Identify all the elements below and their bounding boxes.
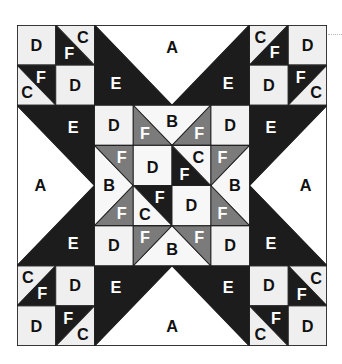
label-f: F	[117, 204, 127, 223]
label-f: F	[296, 67, 306, 86]
label-f: F	[64, 44, 74, 63]
label-e: E	[223, 74, 234, 93]
label-c: C	[77, 324, 89, 343]
label-d: D	[31, 35, 43, 54]
label-c: C	[254, 27, 266, 46]
label-d: D	[263, 276, 275, 295]
label-f: F	[63, 308, 73, 327]
label-c: C	[22, 268, 34, 287]
label-c: C	[310, 83, 322, 102]
label-f: F	[140, 228, 150, 247]
label-f: F	[194, 124, 204, 143]
label-c: C	[254, 324, 266, 343]
label-d: D	[263, 76, 275, 95]
label-c: C	[192, 148, 204, 167]
label-e: E	[223, 278, 234, 297]
label-b: B	[166, 240, 178, 259]
label-d: D	[224, 116, 236, 135]
label-d: D	[69, 276, 81, 295]
label-e: E	[265, 118, 276, 137]
label-d: D	[302, 316, 314, 335]
label-f: F	[117, 148, 127, 167]
label-d: D	[108, 116, 120, 135]
label-c: C	[139, 205, 151, 224]
label-b: B	[103, 176, 115, 195]
label-b: B	[166, 112, 178, 131]
label-a: A	[300, 176, 312, 195]
label-e: E	[68, 118, 79, 137]
label-d: D	[31, 316, 43, 335]
label-e: E	[110, 74, 121, 93]
label-f: F	[140, 124, 150, 143]
label-c: C	[21, 83, 33, 102]
label-e: E	[265, 234, 276, 253]
label-e: E	[110, 278, 121, 297]
side-right	[250, 105, 328, 266]
label-a: A	[166, 316, 178, 335]
label-f: F	[271, 308, 281, 327]
side-left	[17, 105, 95, 266]
label-c: C	[77, 28, 89, 47]
label-d: D	[69, 76, 81, 95]
label-a: A	[166, 37, 178, 56]
label-c: C	[310, 269, 322, 288]
label-b: B	[229, 176, 241, 195]
dotted-leader-line	[328, 34, 342, 37]
label-d: D	[224, 236, 236, 255]
label-f: F	[155, 188, 165, 207]
label-f: F	[217, 148, 227, 167]
label-f: F	[179, 165, 189, 184]
label-f: F	[37, 284, 47, 303]
label-d: D	[186, 196, 198, 215]
label-f: F	[270, 43, 280, 62]
label-f: F	[36, 67, 46, 86]
label-d: D	[302, 35, 314, 54]
quilt-block-diagram: D F C F C D C F D D F C C F D D F C D C …	[17, 25, 327, 346]
label-a: A	[34, 176, 46, 195]
label-f: F	[217, 204, 227, 223]
label-f: F	[297, 285, 307, 304]
label-d: D	[108, 236, 120, 255]
label-f: F	[194, 228, 204, 247]
label-d: D	[147, 158, 159, 177]
label-e: E	[68, 234, 79, 253]
